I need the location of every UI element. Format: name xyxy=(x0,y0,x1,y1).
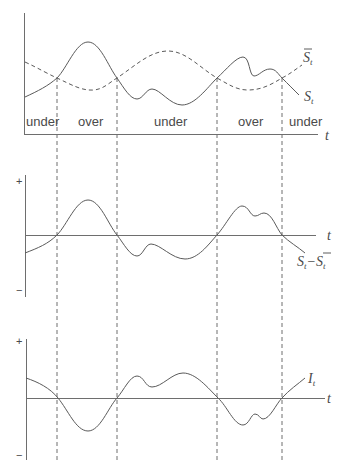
t-axis-label-top: t xyxy=(325,128,330,143)
panel-price-vs-average: St St under over under over under t xyxy=(25,13,331,143)
region-label-4: over xyxy=(238,114,264,129)
region-label-2: over xyxy=(78,114,104,129)
average-curve xyxy=(25,51,302,90)
difference-curve xyxy=(25,200,305,259)
t-axis-label-middle: t xyxy=(327,228,332,243)
minus-sign-bottom: − xyxy=(16,449,22,461)
average-label: St xyxy=(303,50,313,67)
region-label-3: under xyxy=(154,114,188,129)
crossing-markers xyxy=(57,78,282,460)
price-curve xyxy=(25,42,299,105)
plus-sign-bottom: + xyxy=(16,335,22,347)
indicator-curve xyxy=(26,373,305,431)
indicator-label: It xyxy=(307,371,316,388)
panel-indicator: + − It t xyxy=(16,335,332,461)
plus-sign-middle: + xyxy=(16,175,22,187)
region-label-1: under xyxy=(26,114,60,129)
t-axis-label-bottom: t xyxy=(327,391,332,406)
panel-difference: + − St−St t xyxy=(16,175,332,297)
price-label: St xyxy=(304,89,314,106)
region-label-5: under xyxy=(289,114,323,129)
minus-sign-middle: − xyxy=(16,284,22,296)
diagram-canvas: St St under over under over under t + − … xyxy=(0,0,348,468)
difference-label: St−St xyxy=(297,254,326,271)
